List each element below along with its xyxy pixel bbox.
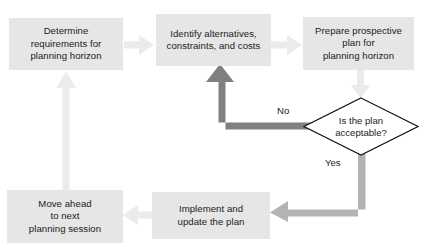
edge-label-yes: Yes [325,157,341,168]
connector-yes-to-implement [262,152,372,222]
node-determine-requirements: Determine requirements for planning hori… [9,18,123,70]
node-identify-alternatives: Identify alternatives, constraints, and … [156,14,271,66]
connector-implement-to-move-ahead [122,203,156,227]
connector-prepare-to-decision [346,70,376,100]
edge-label-no: No [277,105,289,116]
connector-no-to-identify [198,60,313,135]
decision-label: Is the plan acceptable? [303,114,419,138]
node-is-plan-acceptable: Is the plan acceptable? [303,97,419,156]
node-prepare-plan: Prepare prospective plan for planning ho… [303,17,414,70]
flowchart-diagram: Determine requirements for planning hori… [0,0,422,247]
connector-identify-to-prepare [271,33,305,57]
node-move-ahead: Move ahead to next planning session [7,190,123,243]
node-implement-update-plan: Implement and update the plan [152,192,270,239]
connector-move-ahead-to-determine [52,66,80,194]
connector-determine-to-identify [124,33,156,57]
